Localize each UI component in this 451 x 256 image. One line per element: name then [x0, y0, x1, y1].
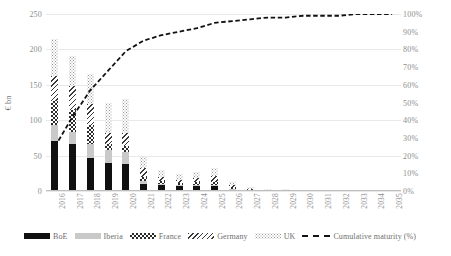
x-axis-tick-label: 2033 — [360, 193, 369, 209]
bar-column — [193, 172, 200, 191]
legend-label: UK — [284, 232, 296, 241]
bar-segment-germany — [51, 76, 58, 101]
bar-segment-germany — [87, 104, 94, 125]
x-axis-tick-label: 2025 — [218, 193, 227, 209]
legend-swatch — [188, 233, 214, 239]
y2-axis-tick-label: 10% — [403, 169, 418, 178]
legend-label: Germany — [217, 232, 247, 241]
bar-segment-uk — [158, 170, 165, 177]
y-axis-tick-label: 0 — [38, 187, 42, 196]
bar-segment-uk — [87, 74, 94, 104]
bar-column — [176, 174, 183, 191]
x-axis-tick-label: 2035 — [395, 193, 404, 209]
bar-segment-boe — [51, 141, 58, 191]
legend-swatch — [255, 233, 281, 239]
bar-segment-boe — [87, 158, 94, 191]
bar-column — [211, 168, 218, 191]
legend-item-boe[interactable]: BoE — [24, 232, 68, 241]
bar-column — [158, 170, 165, 191]
y2-axis-tick-label: 30% — [403, 133, 418, 142]
legend-item-germany[interactable]: Germany — [188, 232, 247, 241]
bar-segment-uk — [140, 157, 147, 168]
y-axis-tick-label: 150 — [29, 80, 42, 89]
y-axis-tick-label: 50 — [34, 151, 42, 160]
y2-axis-tick-label: 0% — [403, 187, 414, 196]
bar-column — [105, 103, 112, 191]
legend-swatch — [75, 233, 101, 239]
y-axis-tick-label: 100 — [29, 116, 42, 125]
legend-item-uk[interactable]: UK — [255, 232, 296, 241]
x-axis-tick-label: 2023 — [182, 193, 191, 209]
x-axis-tick-label: 2022 — [164, 193, 173, 209]
x-axis-tick-label: 2028 — [271, 193, 280, 209]
y-axis-title: € bn — [3, 95, 13, 110]
bar-column — [140, 157, 147, 191]
x-axis-tick-label: 2020 — [129, 193, 138, 209]
legend-swatch — [130, 233, 156, 239]
bar-segment-france — [51, 101, 58, 125]
legend-label: France — [159, 232, 181, 241]
bar-column — [51, 39, 58, 191]
legend-item-iberia[interactable]: Iberia — [75, 232, 123, 241]
bar-segment-france — [69, 110, 76, 131]
x-axis-line — [46, 190, 401, 191]
y2-axis-tick-label: 90% — [403, 27, 418, 36]
bar-column — [87, 74, 94, 192]
x-axis-tick-label: 2021 — [147, 193, 156, 209]
x-axis-tick-label: 2029 — [289, 193, 298, 209]
bar-segment-iberia — [87, 144, 94, 158]
bar-segment-boe — [105, 163, 112, 191]
x-axis-tick-label: 2017 — [76, 193, 85, 209]
x-axis-tick-label: 2034 — [377, 193, 386, 209]
y-axis-title-host: € bn — [10, 14, 11, 191]
y-axis-tick-label: 200 — [29, 45, 42, 54]
bar-segment-uk — [105, 103, 112, 133]
bar-segment-iberia — [122, 152, 129, 164]
y2-axis-tick-label: 70% — [403, 63, 418, 72]
x-axis-labels: 2016201720182019202020212022202320242025… — [46, 193, 401, 227]
y2-axis-tick-label: 40% — [403, 116, 418, 125]
y2-axis-tick-label: 20% — [403, 151, 418, 160]
legend-item-france[interactable]: France — [130, 232, 181, 241]
legend-label: BoE — [53, 232, 68, 241]
bar-segment-germany — [105, 133, 112, 144]
bar-segment-germany — [69, 86, 76, 110]
bar-segment-iberia — [69, 132, 76, 145]
plot-area — [46, 14, 401, 191]
y-axis-tick-label: 250 — [29, 10, 42, 19]
x-axis-tick-label: 2032 — [342, 193, 351, 209]
legend-label: Iberia — [104, 232, 123, 241]
bar-segment-uk — [211, 168, 218, 176]
bar-column — [69, 56, 76, 191]
x-axis-tick-label: 2031 — [324, 193, 333, 209]
bar-segment-iberia — [51, 125, 58, 141]
bar-column — [122, 99, 129, 191]
y2-axis-tick-label: 60% — [403, 80, 418, 89]
bar-segment-germany — [140, 168, 147, 177]
legend-item-cumulative-maturity[interactable]: Cumulative maturity (%) — [302, 232, 416, 241]
bar-segment-germany — [122, 133, 129, 146]
y2-axis-tick-label: 100% — [403, 10, 422, 19]
bar-segment-uk — [122, 99, 129, 133]
x-axis-tick-label: 2018 — [93, 193, 102, 209]
legend-label: Cumulative maturity (%) — [333, 232, 416, 241]
x-axis-tick-label: 2024 — [200, 193, 209, 209]
x-axis-tick-label: 2016 — [58, 193, 67, 209]
x-axis-tick-label: 2027 — [253, 193, 262, 209]
chart-legend: BoEIberiaFranceGermanyUKCumulative matur… — [24, 228, 434, 244]
y-axis-right: 0%10%20%30%40%50%60%70%80%90%100% — [403, 14, 449, 191]
x-axis-tick-label: 2026 — [235, 193, 244, 209]
legend-dashed-line-swatch — [302, 235, 330, 237]
bar-segment-france — [87, 125, 94, 143]
x-axis-tick-label: 2019 — [111, 193, 120, 209]
legend-swatch — [24, 233, 50, 239]
chart-container: 050100150200250 € bn 0%10%20%30%40%50%60… — [0, 0, 451, 256]
bar-segment-uk — [69, 56, 76, 86]
bar-segment-boe — [122, 164, 129, 191]
x-axis-tick-label: 2030 — [306, 193, 315, 209]
bar-segment-iberia — [105, 150, 112, 163]
bar-segment-uk — [51, 39, 58, 76]
y2-axis-tick-label: 50% — [403, 98, 418, 107]
y2-axis-tick-label: 80% — [403, 45, 418, 54]
bar-segment-boe — [69, 144, 76, 191]
